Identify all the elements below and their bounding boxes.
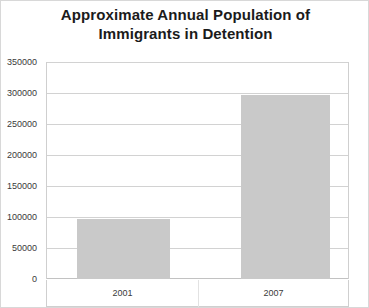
bar-2007[interactable] [241,95,330,279]
y-tick-label-200000: 200000 [0,151,37,160]
bar-2001[interactable] [77,219,170,279]
y-tick-label-150000: 150000 [0,182,37,191]
chart-title-line-1: Approximate Annual Population of [1,5,369,24]
plot-area [46,62,349,279]
chart-title: Approximate Annual Population of Immigra… [1,5,369,43]
y-tick-label-50000: 50000 [0,244,37,253]
chart-title-line-2: Immigrants in Detention [1,24,369,43]
y-tick-label-0: 0 [0,275,37,284]
y-tick-label-300000: 300000 [0,89,37,98]
y-tick-label-350000: 350000 [0,58,37,67]
bar-chart-figure: Approximate Annual Population of Immigra… [0,0,369,308]
x-axis-band: 2001 2007 [46,280,349,307]
gridline-350000 [47,62,348,63]
gridline-300000 [47,93,348,94]
y-tick-label-250000: 250000 [0,120,37,129]
x-tick-label-2007: 2007 [199,288,348,298]
x-tick-label-2001: 2001 [47,288,198,298]
y-tick-label-100000: 100000 [0,213,37,222]
